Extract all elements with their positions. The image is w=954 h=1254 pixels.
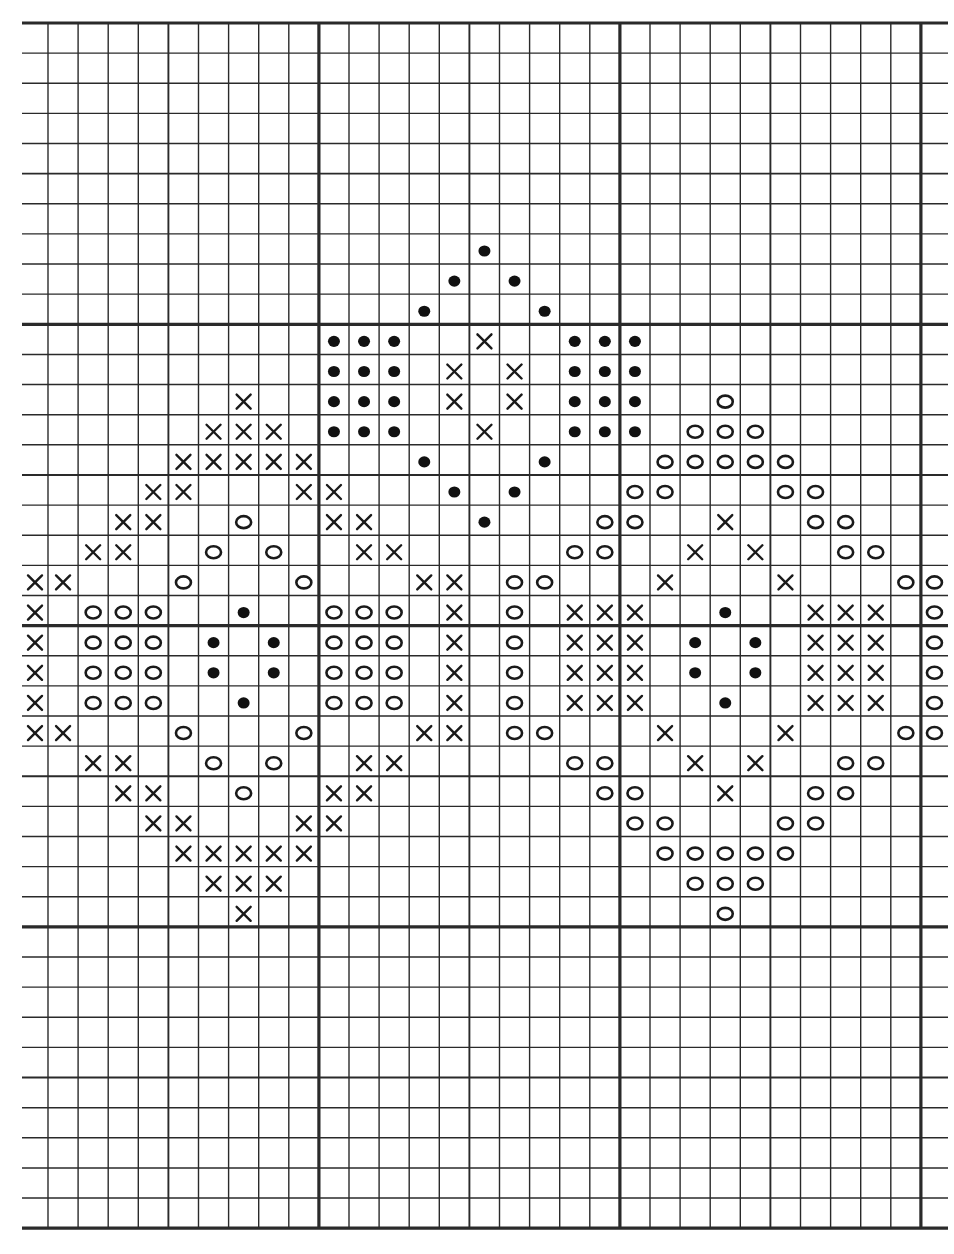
cross-symbol-icon (598, 696, 612, 710)
filled-dot-symbol-icon (509, 276, 521, 287)
cross-symbol-icon (809, 696, 823, 710)
cross-symbol-icon (86, 545, 100, 559)
open-circle-symbol-icon (507, 576, 522, 588)
cross-symbol-icon (116, 515, 130, 529)
open-circle-symbol-icon (357, 637, 372, 649)
filled-dot-symbol-icon (629, 366, 641, 377)
cross-symbol-icon (28, 575, 42, 589)
open-circle-symbol-icon (778, 817, 793, 829)
cross-symbol-icon (568, 666, 582, 680)
filled-dot-symbol-icon (418, 456, 430, 467)
filled-dot-symbol-icon (629, 426, 641, 437)
cross-symbol-icon (237, 847, 251, 861)
open-circle-symbol-icon (507, 727, 522, 739)
cross-symbol-icon (748, 756, 762, 770)
open-circle-symbol-icon (658, 817, 673, 829)
cross-symbol-icon (357, 756, 371, 770)
open-circle-symbol-icon (748, 456, 763, 468)
cross-symbol-icon (267, 425, 281, 439)
open-circle-symbol-icon (927, 697, 942, 709)
open-circle-symbol-icon (748, 426, 763, 438)
open-circle-symbol-icon (627, 516, 642, 528)
filled-dot-symbol-icon (599, 396, 611, 407)
filled-dot-symbol-icon (358, 426, 370, 437)
cross-symbol-icon (207, 455, 221, 469)
pattern-symbols (28, 245, 942, 920)
filled-dot-symbol-icon (629, 336, 641, 347)
cross-symbol-icon (327, 515, 341, 529)
open-circle-symbol-icon (146, 697, 161, 709)
open-circle-symbol-icon (567, 546, 582, 558)
cross-symbol-icon (447, 636, 461, 650)
cross-symbol-icon (297, 816, 311, 830)
open-circle-symbol-icon (718, 908, 733, 920)
filled-dot-symbol-icon (719, 697, 731, 708)
cross-symbol-icon (357, 545, 371, 559)
open-circle-symbol-icon (718, 848, 733, 860)
open-circle-symbol-icon (808, 817, 823, 829)
filled-dot-symbol-icon (719, 607, 731, 618)
filled-dot-symbol-icon (448, 486, 460, 497)
cross-symbol-icon (146, 515, 160, 529)
cross-symbol-icon (146, 786, 160, 800)
open-circle-symbol-icon (116, 637, 131, 649)
cross-symbol-icon (628, 636, 642, 650)
open-circle-symbol-icon (838, 757, 853, 769)
filled-dot-symbol-icon (388, 366, 400, 377)
open-circle-symbol-icon (86, 607, 101, 619)
cross-symbol-icon (508, 364, 522, 378)
cross-symbol-icon (237, 455, 251, 469)
cross-symbol-icon (237, 395, 251, 409)
cross-symbol-icon (237, 877, 251, 891)
open-circle-symbol-icon (808, 516, 823, 528)
open-circle-symbol-icon (116, 667, 131, 679)
filled-dot-symbol-icon (328, 336, 340, 347)
cross-symbol-icon (237, 907, 251, 921)
filled-dot-symbol-icon (358, 336, 370, 347)
cross-symbol-icon (809, 636, 823, 650)
filled-dot-symbol-icon (509, 486, 521, 497)
filled-dot-symbol-icon (629, 396, 641, 407)
open-circle-symbol-icon (868, 546, 883, 558)
open-circle-symbol-icon (927, 607, 942, 619)
filled-dot-symbol-icon (328, 396, 340, 407)
open-circle-symbol-icon (357, 667, 372, 679)
open-circle-symbol-icon (146, 607, 161, 619)
cross-symbol-icon (688, 545, 702, 559)
cross-symbol-icon (869, 636, 883, 650)
cross-symbol-icon (477, 334, 491, 348)
cross-symbol-icon (237, 425, 251, 439)
open-circle-symbol-icon (507, 637, 522, 649)
filled-dot-symbol-icon (358, 366, 370, 377)
cross-symbol-icon (176, 816, 190, 830)
open-circle-symbol-icon (86, 637, 101, 649)
cross-symbol-icon (447, 575, 461, 589)
open-circle-symbol-icon (507, 667, 522, 679)
cross-symbol-icon (568, 636, 582, 650)
open-circle-symbol-icon (718, 396, 733, 408)
cross-symbol-icon (839, 606, 853, 620)
filled-dot-symbol-icon (418, 306, 430, 317)
cross-symbol-icon (778, 726, 792, 740)
cross-symbol-icon (447, 726, 461, 740)
cross-symbol-icon (688, 756, 702, 770)
cross-symbol-icon (447, 666, 461, 680)
open-circle-symbol-icon (658, 486, 673, 498)
cross-symbol-icon (447, 364, 461, 378)
cross-symbol-icon (387, 545, 401, 559)
cross-symbol-icon (869, 606, 883, 620)
open-circle-symbol-icon (658, 848, 673, 860)
open-circle-symbol-icon (748, 848, 763, 860)
open-circle-symbol-icon (296, 576, 311, 588)
cross-symbol-icon (658, 726, 672, 740)
filled-dot-symbol-icon (749, 637, 761, 648)
open-circle-symbol-icon (838, 787, 853, 799)
open-circle-symbol-icon (927, 727, 942, 739)
open-circle-symbol-icon (176, 727, 191, 739)
cross-symbol-icon (809, 666, 823, 680)
cross-symbol-icon (839, 666, 853, 680)
open-circle-symbol-icon (176, 576, 191, 588)
open-circle-symbol-icon (326, 697, 341, 709)
open-circle-symbol-icon (357, 607, 372, 619)
cross-symbol-icon (748, 545, 762, 559)
